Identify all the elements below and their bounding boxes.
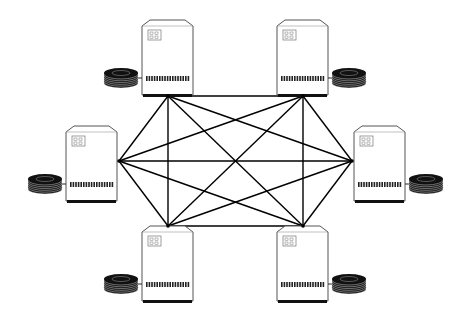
vent-slot xyxy=(317,76,319,81)
server-node xyxy=(28,126,121,203)
vent-slot xyxy=(154,76,156,81)
vent-slot xyxy=(96,182,98,187)
connection-hub xyxy=(166,94,170,98)
vent-slot xyxy=(384,182,386,187)
disk-top xyxy=(409,174,443,184)
vent-slot xyxy=(180,282,182,287)
server-node xyxy=(277,20,366,98)
vent-slot xyxy=(297,282,299,287)
connection-hub xyxy=(166,224,170,228)
vent-slot xyxy=(281,76,283,81)
vent-strip xyxy=(146,76,189,81)
server-node xyxy=(104,20,193,98)
disk-stack-icon xyxy=(405,174,443,194)
vent-slot xyxy=(146,76,148,81)
network-diagram xyxy=(0,0,469,318)
connection-line xyxy=(168,161,352,226)
connection-hub xyxy=(301,94,305,98)
vent-slot xyxy=(323,282,325,287)
vent-slot xyxy=(180,76,182,81)
vent-slot xyxy=(149,282,151,287)
vent-slot xyxy=(361,182,363,187)
vent-slot xyxy=(167,76,169,81)
vent-slot xyxy=(177,282,179,287)
disk-stack-icon xyxy=(328,274,366,294)
vent-slot xyxy=(86,182,88,187)
server-icon xyxy=(277,20,328,95)
vent-slot xyxy=(172,76,174,81)
vent-strip xyxy=(281,76,324,81)
server-icon xyxy=(66,126,117,201)
vent-slot xyxy=(284,282,286,287)
vent-slot xyxy=(400,182,402,187)
vent-slot xyxy=(323,76,325,81)
vent-slot xyxy=(363,182,365,187)
server-base xyxy=(278,300,327,303)
vent-strip xyxy=(281,282,324,287)
vent-slot xyxy=(291,76,293,81)
disk-stack-icon xyxy=(104,274,142,294)
vent-slot xyxy=(73,182,75,187)
disk-top xyxy=(28,174,62,184)
edges-layer xyxy=(119,96,352,226)
vent-slot xyxy=(366,182,368,187)
vent-slot xyxy=(109,182,111,187)
vent-slot xyxy=(175,76,177,81)
connection-line xyxy=(119,96,303,161)
vent-slot xyxy=(162,76,164,81)
vent-slot xyxy=(312,282,314,287)
vent-slot xyxy=(169,76,171,81)
vent-slot xyxy=(358,182,360,187)
vent-slot xyxy=(151,282,153,287)
disk-stack-icon xyxy=(28,174,66,194)
connection-line xyxy=(119,161,303,226)
vent-slot xyxy=(376,182,378,187)
vent-slot xyxy=(106,182,108,187)
server-icon xyxy=(277,226,328,301)
vent-slot xyxy=(175,282,177,287)
vent-slot xyxy=(182,282,184,287)
vent-slot xyxy=(159,282,161,287)
connection-line xyxy=(303,161,352,226)
vent-slot xyxy=(374,182,376,187)
vent-slot xyxy=(284,76,286,81)
vent-slot xyxy=(112,182,114,187)
vent-slot xyxy=(394,182,396,187)
vent-slot xyxy=(289,76,291,81)
connection-hub xyxy=(117,159,121,163)
vent-slot xyxy=(104,182,106,187)
vent-slot xyxy=(379,182,381,187)
vent-slot xyxy=(310,282,312,287)
vent-slot xyxy=(389,182,391,187)
connection-hub xyxy=(350,159,354,163)
connection-line xyxy=(119,161,168,226)
vent-slot xyxy=(381,182,383,187)
vent-slot xyxy=(307,76,309,81)
vent-slot xyxy=(312,76,314,81)
vent-slot xyxy=(289,282,291,287)
vent-slot xyxy=(397,182,399,187)
connection-line xyxy=(168,96,352,161)
vent-slot xyxy=(99,182,101,187)
vent-slot xyxy=(304,282,306,287)
vent-slot xyxy=(154,282,156,287)
vent-slot xyxy=(182,76,184,81)
vent-slot xyxy=(91,182,93,187)
disk-stack-icon xyxy=(104,68,142,88)
vent-slot xyxy=(291,282,293,287)
vent-slot xyxy=(75,182,77,187)
vent-slot xyxy=(164,76,166,81)
disk-top xyxy=(104,274,138,284)
vent-slot xyxy=(167,282,169,287)
server-base xyxy=(67,200,116,203)
vent-slot xyxy=(101,182,103,187)
vent-slot xyxy=(70,182,72,187)
vent-slot xyxy=(387,182,389,187)
vent-slot xyxy=(146,282,148,287)
vent-strip xyxy=(70,182,113,187)
vent-slot xyxy=(188,76,190,81)
vent-slot xyxy=(80,182,82,187)
vent-slot xyxy=(164,282,166,287)
vent-slot xyxy=(317,282,319,287)
vent-slot xyxy=(320,282,322,287)
